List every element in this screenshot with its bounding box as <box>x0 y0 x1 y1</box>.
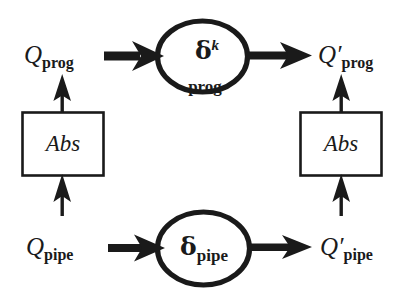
abstraction-commuting-diagram: Qprog Q′prog Qpipe Q′pipe δk prog δpipe … <box>0 0 401 301</box>
q-prog-out-subscript: prog <box>342 54 374 71</box>
prog-node-superscript: k <box>212 37 220 53</box>
label-q-pipe: Qpipe <box>26 234 73 259</box>
q-prog-out-symbol: Q <box>318 41 336 68</box>
q-pipe-out-prime: ′ <box>338 233 343 260</box>
arrow-q-prog-to-delta-prog <box>104 41 164 71</box>
q-pipe-out-symbol: Q <box>320 233 338 260</box>
label-abs-left: Abs <box>22 132 104 155</box>
label-abs-right: Abs <box>300 132 382 155</box>
q-pipe-subscript: pipe <box>44 246 73 263</box>
label-pipe-node: δpipe <box>169 234 239 259</box>
label-q-pipe-out: Q′pipe <box>320 234 373 259</box>
q-pipe-symbol: Q <box>26 233 44 260</box>
q-pipe-out-subscript: pipe <box>344 246 373 263</box>
prog-node-subscript: prog <box>188 77 222 96</box>
label-prog-node: δk prog <box>172 38 242 88</box>
arrow-delta-prog-to-q-prog-out <box>246 42 312 69</box>
label-q-prog: Qprog <box>24 42 74 67</box>
label-q-prog-out: Q′prog <box>318 42 373 67</box>
q-prog-symbol: Q <box>24 41 42 68</box>
arrow-abs-left-to-q-prog <box>53 74 71 113</box>
pipe-node-subscript: pipe <box>197 246 228 265</box>
arrow-q-pipe-to-abs-left <box>53 174 71 216</box>
arrow-delta-pipe-to-q-pipe-out <box>248 235 312 259</box>
prog-node-symbol: δ <box>195 36 212 65</box>
arrow-q-pipe-out-to-abs-right <box>332 174 350 216</box>
arrow-abs-right-to-q-prog-out <box>332 74 350 113</box>
q-prog-subscript: prog <box>42 54 74 71</box>
q-prog-out-prime: ′ <box>336 41 341 68</box>
pipe-node-symbol: δ <box>180 232 197 261</box>
